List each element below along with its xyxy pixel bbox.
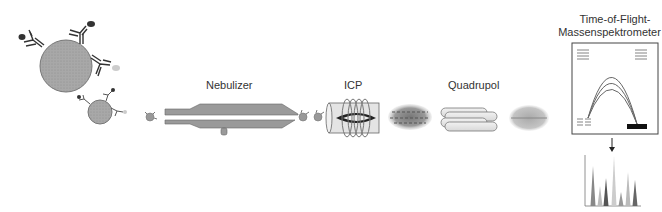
spectrum-peak [633, 180, 638, 206]
quadrupol-icon [441, 108, 497, 131]
spectrum-peak [626, 172, 631, 206]
ion-cloud-icon [388, 104, 432, 130]
tof-label-line2: Massenspektrometer [557, 26, 662, 38]
detector-icon [627, 124, 647, 129]
mass-spectrum-chart [585, 155, 641, 206]
icp-label: ICP [344, 79, 362, 91]
small-cell-with-antibodies [77, 88, 127, 124]
nebulizer-label: Nebulizer [206, 79, 252, 91]
filtered-ion-cloud-icon [509, 105, 549, 131]
tof-analyzer-icon [572, 43, 658, 134]
spectrum-peak [612, 156, 617, 206]
quadrupol-label: Quadrupol [448, 79, 499, 91]
metal-tag-icon [19, 34, 26, 40]
metal-tag-icon [112, 65, 120, 71]
spectrum-peak [598, 186, 603, 206]
nebulizer-icon [165, 104, 298, 135]
spectrum-peak [591, 166, 596, 206]
large-cell-with-antibodies [19, 21, 121, 92]
spectrum-peak [619, 192, 624, 206]
tof-label-line1: Time-of-Flight- [568, 13, 662, 25]
single-cell-icon [145, 112, 157, 121]
spectrum-peak [604, 178, 609, 206]
icp-torch-icon [326, 99, 379, 137]
arrow-down-icon [609, 138, 615, 152]
droplet-cells [299, 110, 324, 121]
metal-tag-icon [87, 21, 95, 27]
